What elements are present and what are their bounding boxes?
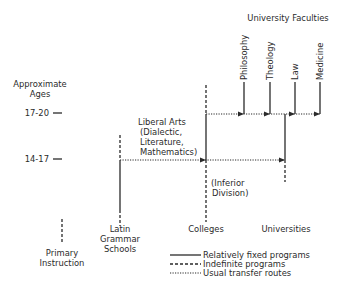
arrow-icon <box>289 112 295 117</box>
faculty-transfer-route <box>206 112 320 117</box>
liberal-arts-label: Liberal Arts (Dialectic, Literature, Mat… <box>138 117 197 157</box>
axis-label-line2: Ages <box>30 89 51 99</box>
inferior-division-line2: Division) <box>212 188 248 198</box>
faculty-lines <box>244 82 320 114</box>
diagram-title: University Faculties <box>247 13 328 23</box>
faculty-medicine: Medicine <box>315 43 325 80</box>
faculty-law: Law <box>290 63 300 80</box>
arrow-icon <box>200 158 206 163</box>
education-pathways-diagram: University Faculties Approximate Ages 17… <box>0 0 338 296</box>
college-transfer-route <box>120 158 285 163</box>
latin-label-line1: Latin <box>110 224 131 234</box>
primary-label-line2: Instruction <box>40 258 85 268</box>
age-axis: Approximate Ages 17-20 14-17 <box>13 79 67 164</box>
arrow-icon <box>264 112 270 117</box>
age-tick-17-20: 17-20 <box>25 108 49 118</box>
axis-label-line1: Approximate <box>13 79 67 89</box>
colleges-label: Colleges <box>188 224 224 234</box>
universities: Universities <box>261 114 310 234</box>
faculty-philosophy: Philosophy <box>239 35 249 80</box>
svg-text:(Dialectic,: (Dialectic, <box>140 127 182 137</box>
primary-instruction: Primary Instruction <box>40 219 85 268</box>
legend-dotted-label: Usual transfer routes <box>203 268 291 278</box>
latin-grammar-schools: Latin Grammar Schools <box>100 135 141 254</box>
latin-label-line2: Grammar <box>100 234 141 244</box>
legend: Relatively fixed programs Indefinite pro… <box>170 250 310 278</box>
arrow-icon <box>279 158 285 163</box>
faculty-labels: Philosophy Theology Law Medicine <box>239 35 325 81</box>
universities-label: Universities <box>261 224 310 234</box>
arrow-icon <box>238 112 244 117</box>
arrow-icon <box>314 112 320 117</box>
svg-text:Literature,: Literature, <box>140 137 184 147</box>
svg-text:Mathematics): Mathematics) <box>140 147 197 157</box>
faculty-theology: Theology <box>265 42 275 81</box>
age-tick-14-17: 14-17 <box>25 154 49 164</box>
svg-text:Liberal Arts: Liberal Arts <box>138 117 186 127</box>
latin-label-line3: Schools <box>104 244 136 254</box>
inferior-division-line1: (Inferior <box>211 178 245 188</box>
primary-label-line1: Primary <box>46 248 78 258</box>
